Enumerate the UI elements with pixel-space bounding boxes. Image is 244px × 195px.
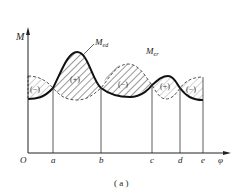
x-axis-label: φ (218, 155, 223, 165)
region-sign: (+) (160, 82, 170, 91)
point-a-label: a (51, 155, 56, 165)
x-arrow-icon (223, 151, 231, 155)
origin-label: O (20, 155, 27, 165)
y-axis-label: M (15, 31, 25, 42)
m-er-label: Mer (145, 46, 159, 57)
figure-caption: ( a ) (114, 178, 129, 188)
y-arrow-icon (26, 27, 30, 35)
point-b-label: b (99, 155, 104, 165)
region-sign: (−) (30, 85, 40, 94)
m-ed-label: Med (94, 37, 109, 48)
moment-diagram: M Med Mer O a b c d e φ (−) (+) (−) (+) … (0, 0, 244, 195)
m-ed-leader (82, 44, 94, 56)
region-sign: (−) (186, 85, 196, 94)
region-sign: (+) (70, 75, 80, 84)
point-e-label: e (201, 155, 205, 165)
region-sign: (−) (118, 80, 128, 89)
point-d-label: d (178, 155, 183, 165)
point-c-label: c (150, 155, 154, 165)
